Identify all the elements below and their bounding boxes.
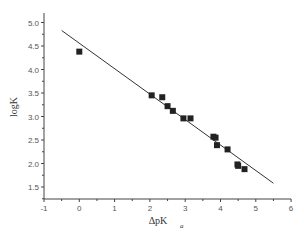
y-tick-label: 2.5 (28, 136, 40, 145)
data-point-marker (187, 115, 193, 121)
x-tick-label: 5 (254, 204, 259, 213)
data-point-marker (235, 163, 241, 169)
y-tick-label: 5.0 (28, 19, 40, 28)
data-points (76, 49, 247, 173)
data-point-marker (213, 135, 219, 141)
scatter-chart: -101234561.52.02.53.03.54.04.55.0 ΔpK a … (0, 0, 304, 245)
y-axis-title: logK (8, 96, 19, 117)
x-axis-title: ΔpK (149, 215, 168, 226)
data-point-marker (149, 92, 155, 98)
y-tick-label: 1.5 (28, 183, 40, 192)
x-tick-label: 6 (289, 204, 294, 213)
y-tick-label: 3.0 (28, 113, 40, 122)
x-tick-label: 0 (77, 204, 82, 213)
data-point-marker (214, 142, 220, 148)
data-point-marker (76, 49, 82, 55)
y-tick-label: 4.5 (28, 42, 40, 51)
y-tick-label: 4.0 (28, 66, 40, 75)
data-point-marker (225, 146, 231, 152)
x-tick-label: -1 (40, 204, 48, 213)
data-point-marker (180, 115, 186, 121)
data-point-marker (159, 94, 165, 100)
y-tick-label: 3.5 (28, 89, 40, 98)
x-axis-title-subscript: a (180, 222, 184, 230)
x-tick-label: 4 (218, 204, 223, 213)
axes: -101234561.52.02.53.03.54.04.55.0 (28, 13, 294, 213)
data-point-marker (242, 166, 248, 172)
x-tick-label: 3 (183, 204, 188, 213)
x-tick-label: 1 (112, 204, 117, 213)
x-tick-label: 2 (148, 204, 153, 213)
data-point-marker (170, 108, 176, 114)
data-point-marker (165, 103, 171, 109)
y-tick-label: 2.0 (28, 160, 40, 169)
